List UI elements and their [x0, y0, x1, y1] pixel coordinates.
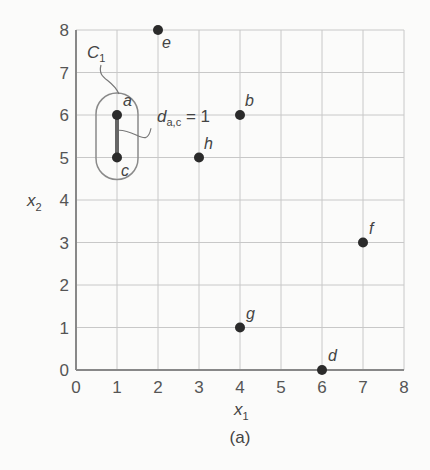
y-tick-label: 4 [60, 191, 69, 210]
x-tick-label: 2 [153, 378, 162, 397]
point-h [194, 153, 204, 163]
x-tick-label: 4 [235, 378, 244, 397]
point-b [235, 110, 245, 120]
y-tick-label: 5 [60, 149, 69, 168]
y-tick-label: 7 [60, 64, 69, 83]
point-label-h: h [204, 135, 213, 152]
point-label-d: d [328, 347, 338, 364]
distance-label: da,c = 1 [157, 107, 210, 128]
point-label-a: a [123, 92, 132, 109]
x-tick-label: 3 [194, 378, 203, 397]
point-label-c: c [121, 162, 129, 179]
point-label-f: f [369, 220, 375, 237]
point-label-b: b [245, 92, 254, 109]
scatter-chart: 012345678 012345678 abcdefgh C1 da,c = 1… [0, 0, 430, 470]
x-tick-label: 7 [358, 378, 367, 397]
y-tick-label: 2 [60, 276, 69, 295]
y-tick-label: 0 [60, 361, 69, 380]
point-a [112, 110, 122, 120]
y-tick-label: 3 [60, 234, 69, 253]
point-label-g: g [246, 305, 255, 322]
grid-lines [76, 30, 404, 370]
point-d [317, 365, 327, 375]
point-label-e: e [162, 34, 171, 51]
x-axis-label: x1 [233, 400, 249, 422]
x-tick-label: 5 [276, 378, 285, 397]
cluster-label-leader [100, 65, 119, 94]
y-tick-label: 8 [60, 21, 69, 40]
x-tick-label: 1 [112, 378, 121, 397]
x-tick-label: 6 [317, 378, 326, 397]
x-tick-label: 0 [71, 378, 80, 397]
distance-label-leader [119, 128, 151, 137]
point-f [358, 238, 368, 248]
point-g [235, 323, 245, 333]
x-tick-label: 8 [399, 378, 408, 397]
y-tick-label: 1 [60, 319, 69, 338]
y-tick-label: 6 [60, 106, 69, 125]
figure-caption: (a) [230, 428, 251, 447]
cluster-label: C1 [87, 43, 105, 64]
y-axis-label: x2 [26, 191, 42, 213]
x-tick-labels: 012345678 [71, 378, 408, 397]
y-tick-labels: 012345678 [60, 21, 69, 380]
